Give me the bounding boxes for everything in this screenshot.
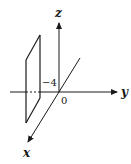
x-axis bbox=[28, 58, 80, 142]
x-axis-label: x bbox=[22, 146, 31, 160]
plane-intercept-label: −4 bbox=[42, 77, 57, 88]
diagram-canvas: z y x 0 −4 bbox=[0, 0, 131, 164]
z-axis-label: z bbox=[54, 6, 63, 20]
y-axis-label: y bbox=[120, 85, 129, 99]
origin-label: 0 bbox=[61, 95, 67, 106]
plane-y-minus-4 bbox=[26, 35, 40, 123]
